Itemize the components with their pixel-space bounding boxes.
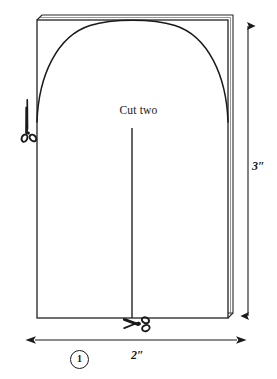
pattern-figure: Cut two 3″ 2″ 1 xyxy=(0,0,277,379)
figure-number-badge: 1 xyxy=(70,350,89,369)
width-dimension-label: 2″ xyxy=(131,349,144,361)
cut-two-label: Cut two xyxy=(0,105,277,117)
pattern-diagram-canvas xyxy=(0,0,277,379)
height-dimension-label: 3″ xyxy=(252,160,265,172)
